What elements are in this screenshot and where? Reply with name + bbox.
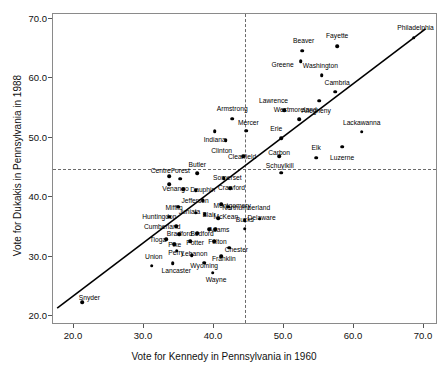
data-point: [279, 171, 283, 175]
data-point: [230, 117, 234, 121]
point-label: Bedford: [190, 230, 213, 237]
point-label: Elk: [312, 144, 321, 151]
point-label: Armstrong: [217, 104, 248, 111]
data-point: [213, 129, 217, 133]
point-label: Centre: [151, 166, 171, 173]
point-label: Butler: [188, 161, 205, 168]
x-tick: [213, 324, 214, 328]
point-label: Jefferson: [181, 196, 208, 203]
y-tick: [48, 18, 52, 19]
point-label: Dauphin: [190, 186, 215, 193]
point-label: Mercer: [238, 118, 259, 125]
x-tick-label: 60.0: [344, 330, 363, 341]
data-point: [244, 129, 248, 133]
point-label: Indiana: [204, 136, 226, 143]
point-label: Cambria: [325, 78, 350, 85]
x-tick: [73, 324, 74, 328]
y-tick: [48, 315, 52, 316]
point-label: Venango: [162, 185, 188, 192]
point-label: Greene: [271, 60, 293, 67]
data-point: [335, 44, 339, 48]
data-point: [360, 130, 364, 134]
point-label: Forest: [171, 166, 190, 173]
scatter-plot-figure: PhiladelphiaFayetteBeaverGreeneWashingto…: [0, 0, 448, 373]
data-point: [150, 264, 154, 268]
point-label: Bucks: [236, 215, 254, 222]
point-label: Fayette: [326, 31, 348, 38]
point-label: Luzerne: [330, 153, 354, 160]
x-tick-label: 30.0: [134, 330, 153, 341]
point-label: Wayne: [206, 275, 227, 282]
point-label: Snyder: [79, 294, 100, 301]
data-point: [211, 271, 215, 275]
data-point: [243, 227, 247, 231]
y-tick-label: 40.0: [29, 191, 48, 202]
y-tick-label: 60.0: [29, 72, 48, 83]
point-label: Union: [145, 253, 162, 260]
point-label: Juniata: [179, 208, 201, 215]
y-tick-label: 20.0: [29, 310, 48, 321]
data-point: [171, 261, 175, 265]
point-label: Washington: [303, 61, 338, 68]
data-point: [320, 73, 324, 77]
point-label: Huntingdon: [142, 213, 176, 220]
plot-area: PhiladelphiaFayetteBeaverGreeneWashingto…: [52, 13, 437, 324]
data-point: [412, 36, 416, 40]
point-label: Lebanon: [181, 250, 207, 257]
y-tick-label: 30.0: [29, 250, 48, 261]
y-tick-label: 70.0: [29, 12, 48, 23]
data-point: [340, 145, 344, 149]
y-tick: [48, 256, 52, 257]
point-label: Westmoreland: [274, 106, 317, 113]
y-tick-label: 50.0: [29, 131, 48, 142]
point-label: Lawrence: [259, 97, 288, 104]
x-tick-label: 70.0: [414, 330, 433, 341]
x-tick-label: 50.0: [274, 330, 293, 341]
point-label: Lackawanna: [343, 118, 381, 125]
point-label: McKean: [214, 213, 239, 220]
x-tick: [353, 324, 354, 328]
point-label: Northumberland: [222, 203, 270, 210]
data-point: [333, 90, 337, 94]
data-point: [279, 136, 283, 140]
data-point: [300, 49, 304, 53]
regression-line: [53, 14, 436, 323]
point-label: Somerset: [213, 173, 242, 180]
data-point: [81, 301, 85, 305]
x-tick: [143, 324, 144, 328]
y-tick: [48, 137, 52, 138]
y-tick: [48, 77, 52, 78]
y-axis-title: Vote for Dukakis in Pennsylvania in 1988: [12, 56, 23, 276]
x-tick: [283, 324, 284, 328]
data-point: [298, 117, 302, 121]
point-label: Beaver: [293, 36, 314, 43]
data-point: [317, 99, 321, 103]
point-label: Chester: [225, 245, 248, 252]
point-label: Crawford: [218, 184, 245, 191]
point-label: Cumberland: [144, 222, 180, 229]
point-label: Clearfield: [228, 152, 256, 159]
point-label: Tioga: [150, 236, 166, 243]
point-label: Fulton: [208, 238, 227, 245]
x-axis-title: Vote for Kennedy in Pennsylvania in 1960: [0, 351, 448, 362]
point-label: Pike: [168, 241, 181, 248]
data-point: [314, 156, 318, 160]
point-label: Bradford: [167, 230, 193, 237]
point-label: Carbon: [268, 148, 290, 155]
point-label: Lancaster: [162, 267, 191, 274]
point-label: Schuylkill: [266, 162, 294, 169]
data-point: [167, 175, 171, 179]
point-label: Erie: [270, 125, 282, 132]
point-label: Philadelphia: [397, 24, 433, 31]
data-point: [195, 172, 199, 176]
point-label: Wyoming: [190, 261, 218, 268]
point-label: Potter: [186, 239, 204, 246]
y-tick: [48, 196, 52, 197]
x-tick: [423, 324, 424, 328]
x-tick-label: 20.0: [64, 330, 83, 341]
x-tick-label: 40.0: [204, 330, 223, 341]
data-point: [179, 177, 183, 181]
